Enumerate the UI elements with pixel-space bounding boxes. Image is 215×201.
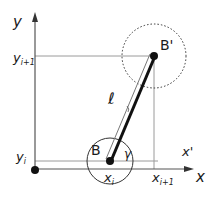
point-b-prime	[150, 52, 158, 60]
angle-gamma-label: γ	[124, 147, 132, 161]
y-i-label: yi	[15, 149, 27, 166]
rod-length-label: ℓ	[107, 89, 115, 108]
x-axis-label: x	[195, 168, 205, 186]
y-axis-label: y	[12, 13, 23, 31]
x-i-sub: i	[112, 178, 115, 187]
x-i1-label: xi+1	[151, 170, 174, 187]
x-i-label: xi	[103, 170, 115, 187]
rod	[111, 56, 155, 161]
y-i1-sub: i+1	[21, 58, 35, 67]
x-prime-label: x'	[181, 144, 193, 159]
rod-kinematics-diagram: y x yi+1 yi xi xi+1 B B' ℓ γ x'	[0, 0, 215, 201]
x-i1-sub: i+1	[160, 178, 174, 187]
x-axis-arrow-icon	[184, 166, 194, 172]
y-i-sub: i	[24, 157, 27, 166]
point-b-prime-label: B'	[160, 37, 173, 53]
origin-point	[31, 166, 39, 174]
y-i-base: y	[15, 149, 24, 164]
y-i1-label: yi+1	[12, 50, 35, 67]
point-b-label: B	[91, 142, 101, 158]
x-i-base: x	[103, 170, 112, 185]
y-i1-base: y	[12, 50, 21, 65]
x-i1-base: x	[151, 170, 160, 185]
y-axis-arrow-icon	[32, 12, 38, 22]
point-b	[106, 157, 114, 165]
